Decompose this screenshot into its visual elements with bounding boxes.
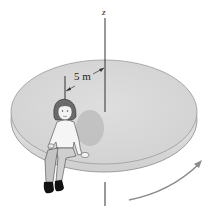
radius-label: 5 m <box>74 71 91 82</box>
platform-top <box>11 60 197 164</box>
rotating-platform-diagram: z 5 m <box>0 0 210 212</box>
girl-shadow <box>76 110 104 146</box>
z-axis-label: z <box>102 8 106 17</box>
